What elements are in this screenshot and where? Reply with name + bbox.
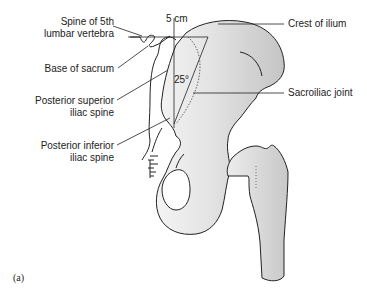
label-base-of-sacrum: Base of sacrum [45, 63, 114, 75]
label-posterior-inferior-iliac-spine: Posterior inferior iliac spine [41, 140, 114, 164]
label-spine-5th-lumbar-vertebra: Spine of 5th lumbar vertebra [44, 16, 114, 40]
figure-caption: (a) [13, 272, 24, 283]
label-posterior-superior-iliac-spine: Posterior superior iliac spine [35, 95, 114, 119]
label-crest-of-ilium: Crest of ilium [288, 18, 346, 30]
coccyx [148, 156, 158, 178]
pelvis-diagram: 5 cm 25° Spine of 5th lumbar vertebra Ba… [0, 0, 367, 303]
label-sacroiliac-joint: Sacroiliac joint [288, 87, 352, 99]
angle-label: 25° [174, 74, 189, 86]
measurement-label: 5 cm [166, 13, 188, 25]
femur-bone [227, 145, 288, 281]
